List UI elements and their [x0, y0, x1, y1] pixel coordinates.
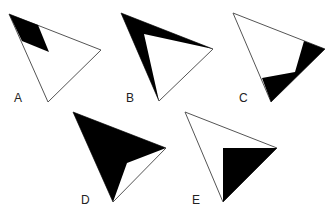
- option-label: C: [239, 91, 248, 105]
- option-b[interactable]: B: [121, 13, 213, 105]
- option-label: E: [192, 193, 200, 207]
- option-d[interactable]: D: [73, 112, 166, 207]
- option-e[interactable]: E: [185, 112, 277, 207]
- shaded-region: [223, 148, 277, 202]
- option-label: D: [81, 193, 90, 207]
- option-a[interactable]: A: [9, 14, 101, 105]
- option-label: A: [14, 91, 22, 105]
- option-c[interactable]: C: [233, 13, 325, 105]
- triangle-options-diagram: A B C D E: [0, 0, 333, 215]
- option-label: B: [126, 91, 134, 105]
